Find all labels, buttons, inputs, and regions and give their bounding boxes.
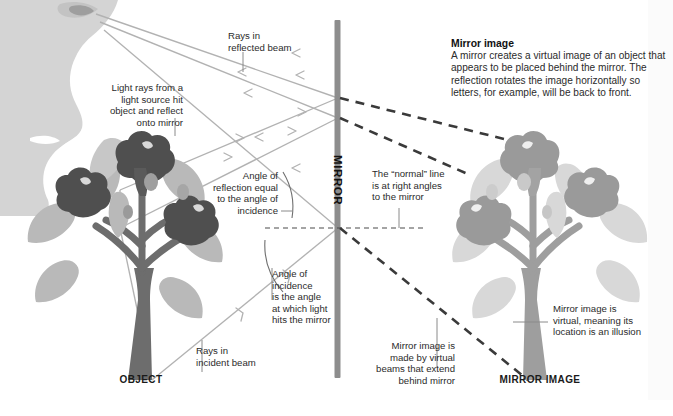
label-angle-incidence: Angle of incidence is the angle at which… [272,268,360,326]
label-light-source: Light rays from a light source hit objec… [88,82,183,128]
diagram-canvas: Rays in reflected beam Light rays from a… [0,0,673,416]
mirror-label: MIRROR [332,155,344,205]
label-angle-reflection: Angle of reflection equal to the angle o… [186,170,278,216]
panel-body: A mirror creates a virtual image of an o… [451,50,666,100]
caption-object: OBJECT [86,374,196,385]
label-virtual-beams: Mirror image is made by virtual beams th… [355,340,455,386]
panel-title: Mirror image [451,38,666,49]
label-normal-line: The “normal” line is at right angles to … [372,168,468,203]
bottom-band [0,400,673,416]
label-rays-incident: Rays in incident beam [196,345,282,368]
label-image-virtual: Mirror image is virtual, meaning its loc… [553,303,665,338]
caption-mirror-image: MIRROR IMAGE [470,374,610,385]
label-rays-reflected: Rays in reflected beam [228,30,318,53]
mirror-image-info-panel: Mirror image A mirror creates a virtual … [451,38,666,100]
